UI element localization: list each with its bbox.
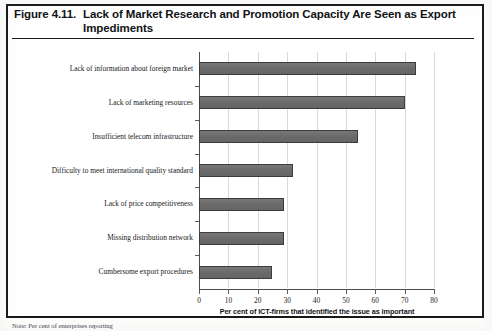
figure-note: Note: Per cent of enterprises reporting [12, 322, 113, 330]
x-axis-tick-label: 70 [401, 296, 408, 305]
category-label: Lack of information about foreign market [0, 64, 193, 73]
y-axis-tick [195, 221, 199, 222]
bar [199, 62, 416, 75]
category-label: Difficulty to meet international quality… [0, 166, 193, 175]
figure-page: Figure 4.11. Lack of Market Research and… [0, 0, 492, 331]
category-label: Insufficient telecom infrastructure [0, 132, 193, 141]
y-axis-tick [195, 187, 199, 188]
bar [199, 266, 272, 279]
y-axis-tick [195, 154, 199, 155]
x-axis-tick [287, 290, 288, 294]
chart-plot-area: Lack of information about foreign market… [0, 44, 478, 312]
x-axis-tick [228, 290, 229, 294]
x-axis-tick [346, 290, 347, 294]
figure-title-block: Figure 4.11. Lack of Market Research and… [14, 8, 476, 35]
x-axis-tick-label: 80 [430, 296, 437, 305]
figure-number: Figure 4.11. [14, 8, 76, 22]
gridline [346, 52, 347, 288]
title-divider [12, 38, 474, 39]
category-label: Missing distribution network [0, 233, 193, 242]
bar [199, 232, 284, 245]
x-axis-tick [258, 290, 259, 294]
bar [199, 130, 358, 143]
bar [199, 164, 293, 177]
x-axis-tick [405, 290, 406, 294]
bar [199, 96, 405, 109]
page-title: Lack of Market Research and Promotion Ca… [83, 8, 476, 35]
x-axis-tick-label: 20 [254, 296, 261, 305]
x-axis-tick [317, 290, 318, 294]
bar [199, 198, 284, 211]
x-axis-tick-label: 10 [225, 296, 232, 305]
category-label: Lack of price competitiveness [0, 199, 193, 208]
x-axis-tick-label: 60 [372, 296, 379, 305]
y-axis-tick [195, 255, 199, 256]
gridline [405, 52, 406, 288]
gridline [375, 52, 376, 288]
x-axis-tick [434, 290, 435, 294]
x-axis-tick [375, 290, 376, 294]
x-axis-tick-label: 0 [197, 296, 201, 305]
x-axis-tick [199, 290, 200, 294]
figure-frame-bottom-rule [6, 316, 484, 318]
category-label: Lack of marketing resources [0, 98, 193, 107]
x-axis-tick-label: 30 [283, 296, 290, 305]
gridline [434, 52, 435, 288]
category-label: Cumbersome export procedures [0, 267, 193, 276]
x-axis-tick-label: 40 [313, 296, 320, 305]
x-axis-tick-label: 50 [342, 296, 349, 305]
x-axis-title: Per cent of ICT-firms that identified th… [199, 307, 435, 316]
gridline [317, 52, 318, 288]
y-axis-tick [195, 86, 199, 87]
y-axis-tick [195, 120, 199, 121]
